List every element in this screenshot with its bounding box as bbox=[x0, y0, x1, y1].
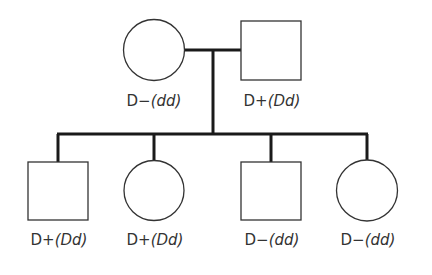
mother-label: D−(dd) bbox=[127, 92, 182, 110]
father-square bbox=[241, 21, 301, 80]
father-genotype: (Dd) bbox=[268, 92, 301, 110]
child2-phenotype: D+ bbox=[127, 231, 151, 249]
child2-genotype: (Dd) bbox=[151, 231, 184, 249]
mother-circle bbox=[124, 20, 185, 81]
child3-label: D−(dd) bbox=[245, 231, 300, 249]
child2-circle bbox=[124, 161, 184, 221]
pedigree-diagram: D−(dd) D+(Dd) D+(Dd) D+(Dd) D−(dd) D−(dd… bbox=[0, 0, 432, 275]
child2-label: D+(Dd) bbox=[127, 231, 184, 249]
father-phenotype: D+ bbox=[244, 92, 268, 110]
child1-label: D+(Dd) bbox=[31, 231, 88, 249]
child4-circle bbox=[337, 160, 398, 221]
child3-genotype: (dd) bbox=[269, 231, 300, 249]
mother-genotype: (dd) bbox=[151, 92, 182, 110]
child1-square bbox=[28, 162, 88, 220]
father-label: D+(Dd) bbox=[244, 92, 301, 110]
child1-genotype: (Dd) bbox=[55, 231, 88, 249]
child4-label: D−(dd) bbox=[341, 231, 396, 249]
child1-phenotype: D+ bbox=[31, 231, 55, 249]
child4-phenotype: D− bbox=[341, 231, 365, 249]
child4-genotype: (dd) bbox=[365, 231, 396, 249]
mother-phenotype: D− bbox=[127, 92, 151, 110]
child3-phenotype: D− bbox=[245, 231, 269, 249]
child3-square bbox=[241, 162, 301, 220]
